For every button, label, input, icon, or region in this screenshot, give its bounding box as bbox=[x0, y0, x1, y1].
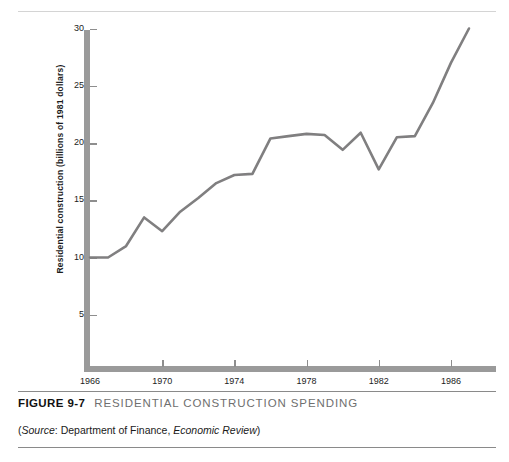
page-rule-bottom bbox=[18, 447, 496, 448]
caption-rule-top bbox=[18, 391, 496, 392]
figure-title: RESIDENTIAL CONSTRUCTION SPENDING bbox=[94, 397, 358, 409]
plot-svg bbox=[0, 14, 509, 384]
figure-number: FIGURE 9-7 bbox=[18, 397, 85, 409]
source-publication: Economic Review bbox=[173, 424, 256, 436]
source-label: Source bbox=[22, 424, 55, 436]
page-rule-top bbox=[18, 11, 496, 12]
data-series-line bbox=[90, 29, 469, 258]
chart-area: Residential construction (billions of 19… bbox=[0, 14, 509, 384]
figure-source: (Source: Department of Finance, Economic… bbox=[18, 424, 260, 436]
source-organization: Department of Finance, bbox=[61, 424, 174, 436]
figure-caption: FIGURE 9-7RESIDENTIAL CONSTRUCTION SPEND… bbox=[18, 397, 496, 409]
source-close-paren: ) bbox=[257, 424, 261, 436]
